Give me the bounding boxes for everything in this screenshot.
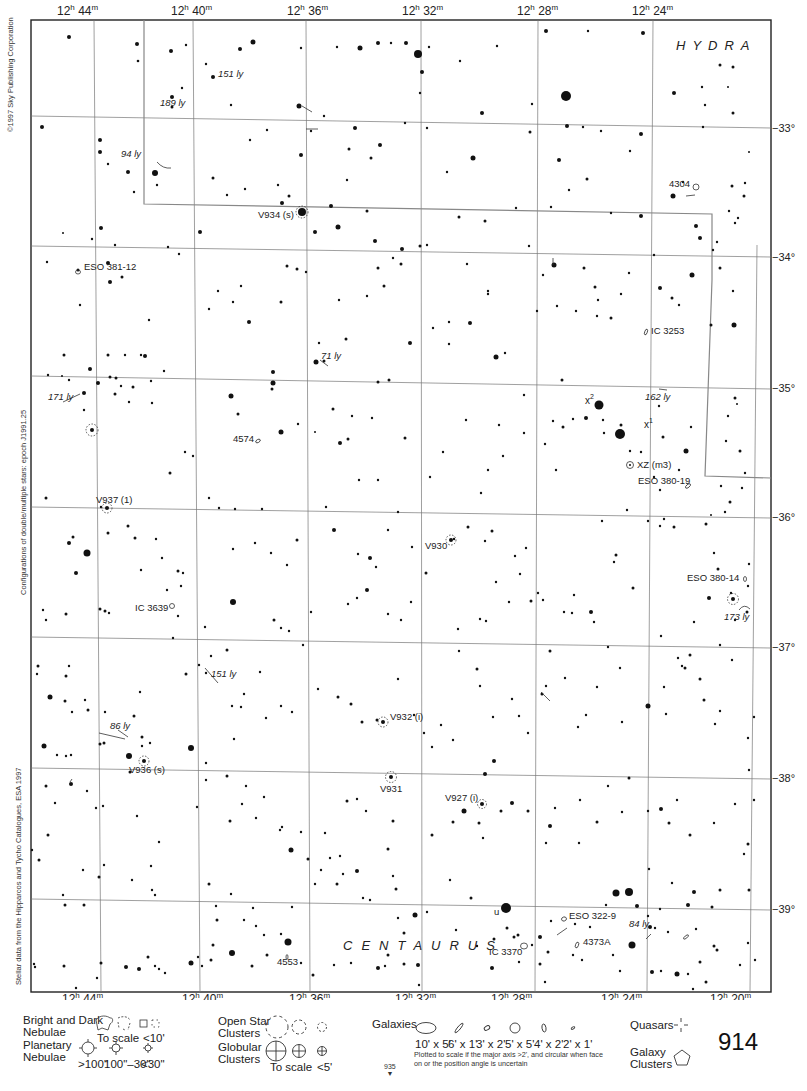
star (673, 526, 676, 529)
star (748, 889, 751, 892)
galaxy-symbol (575, 942, 580, 949)
star (247, 320, 251, 324)
star (635, 904, 639, 908)
star (565, 124, 569, 128)
star (181, 87, 183, 89)
star (370, 157, 373, 160)
star (126, 170, 130, 174)
star (254, 542, 256, 544)
object-label: 4553 (277, 956, 298, 967)
star (270, 552, 272, 554)
star (141, 745, 143, 747)
star (332, 408, 335, 411)
star (732, 290, 734, 292)
open-cluster-symbols (264, 1013, 334, 1041)
star (483, 772, 487, 776)
star (647, 810, 649, 812)
star (314, 431, 316, 433)
star (33, 963, 35, 965)
ra-grid-line (535, 20, 538, 992)
star (672, 91, 676, 95)
star (753, 799, 755, 801)
star (104, 711, 106, 713)
star (230, 104, 232, 106)
star (621, 811, 623, 813)
star (210, 959, 213, 962)
star (595, 401, 604, 410)
star (744, 472, 746, 474)
star (628, 272, 630, 274)
legend-gc-to-scale: To scale (270, 1061, 312, 1073)
star (201, 965, 203, 967)
ra-tick-label-bottom: 12h 32m (395, 991, 437, 1000)
dec-tick-label: −38° (772, 772, 795, 784)
star (215, 905, 217, 907)
star (678, 304, 680, 306)
star (487, 290, 489, 292)
star (607, 646, 609, 648)
star (659, 525, 661, 527)
star (96, 381, 100, 385)
star (400, 263, 403, 266)
star (152, 170, 158, 176)
star (621, 721, 623, 723)
star (150, 380, 152, 382)
star (310, 611, 312, 613)
star (312, 974, 315, 977)
star (99, 608, 102, 611)
star (659, 807, 663, 811)
star (70, 754, 72, 756)
object-label: ESO 381-12 (84, 261, 136, 272)
star (205, 779, 207, 781)
dec-tick-label: −34° (772, 251, 795, 263)
star (658, 286, 662, 290)
adjacent-page-link[interactable]: 935▼ (384, 1063, 396, 1077)
star (625, 888, 633, 896)
star (743, 195, 746, 198)
star (515, 207, 517, 209)
orbit-arc (157, 162, 171, 168)
star (713, 552, 715, 554)
star (95, 807, 97, 809)
star (177, 570, 180, 573)
star (371, 417, 373, 419)
star (42, 744, 47, 749)
star (705, 523, 708, 526)
object-label: u (494, 906, 499, 917)
star (366, 210, 369, 213)
ra-tick-label-bottom: 12h 36m (289, 991, 331, 1000)
distance-label: 151 ly (211, 668, 238, 679)
star (529, 131, 532, 134)
star (163, 370, 165, 372)
star (640, 451, 642, 453)
star (169, 472, 172, 475)
star (476, 668, 479, 671)
star (552, 420, 554, 422)
star (693, 621, 695, 623)
star (468, 321, 472, 325)
star (36, 673, 38, 675)
star (182, 572, 184, 574)
star (686, 903, 690, 907)
star (716, 241, 718, 243)
galaxy-symbol (683, 934, 689, 940)
star (448, 321, 450, 323)
star (485, 620, 487, 622)
star (361, 721, 364, 724)
star (325, 506, 327, 508)
star (748, 563, 750, 565)
star (612, 954, 614, 956)
star (377, 267, 380, 270)
star (537, 592, 539, 594)
ra-grid-line (421, 20, 422, 992)
star (710, 514, 712, 516)
star (501, 903, 511, 913)
star (62, 894, 64, 896)
star (108, 280, 112, 284)
star (350, 962, 352, 964)
star (748, 151, 750, 153)
star (82, 869, 84, 871)
star (204, 626, 206, 628)
star (226, 194, 228, 196)
star (64, 700, 67, 703)
